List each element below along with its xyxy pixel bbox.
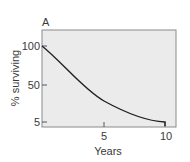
y-tick-label-50: 50 bbox=[28, 79, 40, 91]
panel-label: A bbox=[42, 16, 50, 28]
x-axis-label: Years bbox=[94, 145, 122, 157]
x-tick-label-5: 5 bbox=[101, 130, 107, 142]
y-tick-label-100: 100 bbox=[22, 40, 40, 52]
y-axis-label: % surviving bbox=[9, 50, 21, 106]
x-tick-label-10: 10 bbox=[160, 130, 172, 142]
survival-chart: A 100 50 5 % surviving 5 10 Years bbox=[0, 0, 190, 162]
plot-area bbox=[42, 30, 176, 127]
y-tick-label-5: 5 bbox=[34, 116, 40, 128]
y-axis: 100 50 5 % surviving bbox=[9, 40, 47, 128]
